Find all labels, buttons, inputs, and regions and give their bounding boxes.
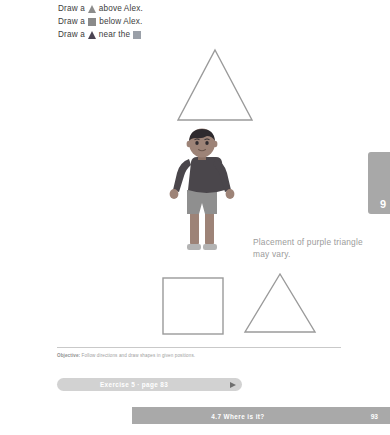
chapter-side-tab: 9 <box>368 152 390 214</box>
instruction-1-after: above Alex. <box>99 5 143 13</box>
alex-illustration <box>166 128 238 262</box>
exercise-bar[interactable]: Exercise 5 · page 83 <box>57 378 242 391</box>
instruction-3-before: Draw a <box>58 31 85 39</box>
gray-triangle-icon <box>88 5 96 13</box>
objective-line: Objective: Follow directions and draw sh… <box>57 353 195 358</box>
horizontal-rule <box>57 347 341 348</box>
arrow-right-icon <box>230 382 236 388</box>
instruction-3-after: near the <box>99 31 130 39</box>
instruction-2-after: below Alex. <box>99 18 142 26</box>
chapter-number: 9 <box>380 199 386 210</box>
purple-triangle-icon <box>88 31 96 39</box>
instruction-2-before: Draw a <box>58 18 85 26</box>
footer-bar: 4.7 Where is it? 93 <box>132 407 390 424</box>
objective-text: Follow directions and draw shapes in giv… <box>82 353 196 358</box>
outlined-square-bottom <box>162 277 224 335</box>
gray-square-icon <box>88 18 96 26</box>
instruction-line-3: Draw a near the <box>58 29 228 41</box>
placement-note: Placement of purple triangle may vary. <box>253 236 363 260</box>
footer-title: 4.7 Where is it? <box>132 412 390 419</box>
blue-square-icon <box>133 31 141 39</box>
exercise-label: Exercise 5 · page 83 <box>100 381 168 388</box>
outlined-triangle-top <box>176 48 254 122</box>
objective-label: Objective: <box>57 353 80 358</box>
outlined-triangle-bottom <box>243 272 317 334</box>
instruction-1-before: Draw a <box>58 5 85 13</box>
instruction-line-1: Draw a above Alex. <box>58 3 228 15</box>
footer-page-number: 93 <box>371 412 378 419</box>
instructions-block: Draw a above Alex. Draw a below Alex. Dr… <box>58 3 228 42</box>
instruction-line-2: Draw a below Alex. <box>58 16 228 28</box>
